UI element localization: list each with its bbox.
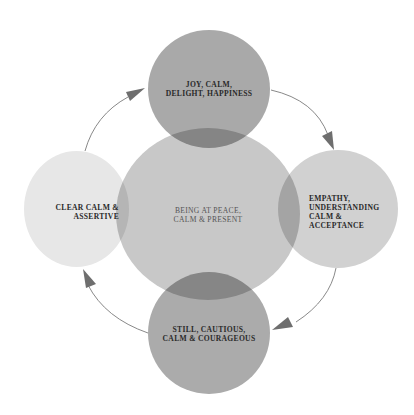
node-top: Joy, calm, delight, happiness — [148, 30, 270, 148]
node-center-label: Being at peace, calm & present — [116, 206, 300, 224]
node-right: Empathy, understanding calm & acceptance — [278, 150, 398, 268]
node-left-label: Clear calm & assertive — [55, 203, 119, 221]
node-top-label: Joy, calm, delight, happiness — [148, 80, 270, 98]
label-layer: Being at peace, calm & present Joy, calm… — [0, 0, 414, 415]
node-bottom: Still, cautious, calm & courageous — [148, 272, 270, 394]
calm-states-diagram: Being at peace, calm & present Joy, calm… — [0, 0, 414, 415]
node-left: Clear calm & assertive — [24, 151, 129, 267]
node-bottom-label: Still, cautious, calm & courageous — [148, 325, 270, 343]
node-right-label: Empathy, understanding calm & acceptance — [309, 194, 379, 230]
